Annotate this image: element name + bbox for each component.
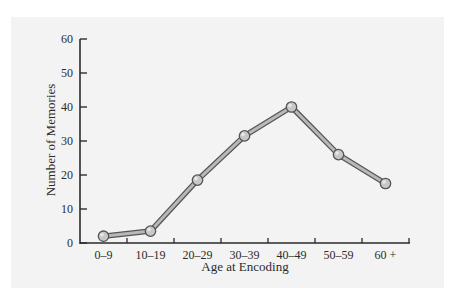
y-axis-title: Number of Memories [43,84,58,197]
data-point-marker [286,102,296,112]
y-tick-label: 10 [61,202,73,216]
marker-highlight [241,133,245,137]
marker-highlight [194,177,198,181]
data-point-marker [333,149,343,159]
data-point-marker [98,231,108,241]
y-tick-label: 0 [67,236,73,250]
marker-highlight [100,233,104,237]
line-chart: 0102030405060 0–910–1920–2930–3940–4950–… [0,0,456,298]
y-axis: 0102030405060 [61,32,87,250]
y-tick-label: 50 [61,66,73,80]
data-point-marker [192,175,202,185]
x-tick-label: 10–19 [136,248,166,262]
y-tick-label: 20 [61,168,73,182]
data-point-marker [145,226,155,236]
data-point-marker [239,131,249,141]
marker-highlight [288,104,292,108]
data-series [98,102,390,242]
y-tick-label: 30 [61,134,73,148]
x-axis-title: Age at Encoding [201,259,289,274]
y-tick-label: 40 [61,100,73,114]
x-tick-label: 60 + [375,248,397,262]
marker-highlight [335,151,339,155]
marker-highlight [147,228,151,232]
y-tick-label: 60 [61,32,73,46]
data-point-marker [380,178,390,188]
series-line [104,107,386,236]
marker-highlight [382,180,386,184]
x-tick-label: 50–59 [324,248,354,262]
series-line-outline [104,107,386,236]
x-tick-label: 0–9 [95,248,113,262]
